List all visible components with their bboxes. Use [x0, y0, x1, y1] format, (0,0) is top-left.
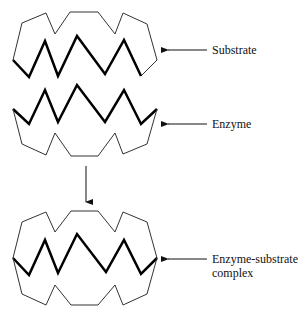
enzyme-substrate-complex-shape [13, 211, 157, 305]
enzyme-label: Enzyme [212, 117, 251, 131]
substrate-label: Substrate [212, 43, 257, 57]
complex-label-line2: complex [212, 266, 253, 280]
substrate-shape [13, 12, 157, 77]
enzyme-shape [13, 85, 157, 156]
complex-label-line1: Enzyme-substrate [212, 252, 298, 266]
